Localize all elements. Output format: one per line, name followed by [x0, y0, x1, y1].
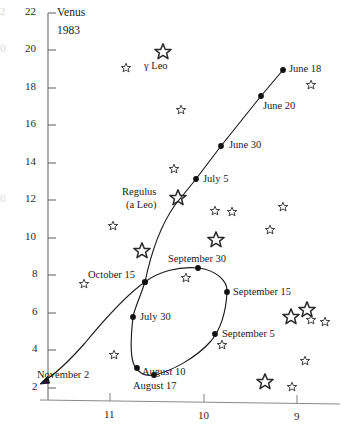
star-large-5 [257, 374, 273, 389]
y-tick-label-18: 18 [25, 80, 36, 92]
date-label-july-30: July 30 [140, 311, 171, 323]
edge-ghost-mark-1: 2 [0, 5, 6, 17]
marker-october-15 [142, 279, 148, 285]
y-tick-label-12: 12 [25, 192, 36, 204]
marker-july-30 [130, 314, 136, 320]
star-label-regulus: Regulus [122, 186, 156, 198]
marker-june-20 [258, 93, 264, 99]
star-small-16 [109, 350, 119, 359]
star-small-14 [217, 340, 227, 349]
star-small-17 [287, 382, 297, 391]
star-small-5 [210, 206, 220, 215]
y-tick-label-16: 16 [25, 117, 36, 129]
date-label-november-2: November 2 [37, 369, 89, 381]
y-axis-ticks [48, 13, 56, 388]
date-label-august-17: August 17 [133, 380, 176, 392]
date-label-june-30: June 30 [229, 139, 261, 151]
marker-september-5 [212, 331, 218, 337]
date-label-september-30: September 30 [168, 253, 226, 265]
star-small-2 [176, 105, 186, 114]
y-tick-label-4: 4 [32, 342, 38, 354]
star-small-13 [320, 317, 330, 326]
background-star-field [79, 44, 330, 391]
edge-ghost-mark-3: 0 [0, 192, 6, 204]
y-tick-label-2: 2 [32, 380, 38, 392]
figure-title-object: Venus [57, 6, 85, 19]
venus-path-retrograde-west [131, 282, 154, 375]
y-tick-label-10: 10 [25, 230, 36, 242]
x-tick-label-11: 11 [104, 408, 115, 420]
marker-september-30 [195, 265, 201, 271]
x-tick-label-10: 10 [198, 409, 209, 421]
star-small-6 [227, 207, 237, 216]
edge-ghost-mark-2: 0 [0, 42, 6, 54]
x-axis-line [40, 400, 340, 404]
marker-june-30 [218, 143, 224, 149]
y-tick-label-14: 14 [25, 155, 36, 167]
star-small-15 [300, 356, 310, 365]
marker-september-15 [224, 289, 230, 295]
marker-june-18 [280, 67, 286, 73]
star-small-3 [306, 80, 316, 89]
figure-title-year: 1983 [57, 24, 80, 37]
star-small-11 [181, 273, 191, 282]
date-label-september-15: September 15 [233, 286, 291, 298]
date-label-june-20: June 20 [263, 100, 295, 112]
date-label-july-5: July 5 [203, 173, 228, 185]
star-small-8 [265, 225, 275, 234]
star-small-9 [108, 221, 118, 230]
date-label-september-5: September 5 [222, 328, 275, 340]
y-tick-label-22: 22 [25, 5, 36, 17]
y-tick-label-6: 6 [32, 305, 38, 317]
star-small-4 [169, 164, 179, 173]
star-small-7 [278, 202, 288, 211]
star-large-4 [283, 309, 299, 324]
star-large-2 [134, 243, 150, 258]
y-tick-label-8: 8 [32, 267, 38, 279]
venus-1983-star-chart: Venus 1983 22 20 18 16 14 12 10 8 6 4 2 … [0, 0, 345, 433]
date-label-october-15: October 15 [88, 269, 135, 281]
star-small-1 [121, 63, 131, 72]
star-regulus [170, 190, 186, 205]
y-tick-label-20: 20 [25, 42, 36, 54]
star-large-1 [208, 232, 224, 247]
date-label-august-10: August 10 [142, 366, 185, 378]
venus-path-october-november [42, 282, 145, 382]
x-tick-label-9: 9 [294, 410, 300, 422]
star-large-3 [299, 302, 315, 317]
marker-august-10 [134, 365, 140, 371]
date-label-june-18: June 18 [289, 63, 321, 75]
marker-july-5 [193, 176, 199, 182]
star-gamma-leo [155, 44, 171, 59]
star-label-regulus-designation: (a Leo) [126, 199, 157, 211]
star-label-gamma-leo: γ Leo [144, 60, 168, 72]
